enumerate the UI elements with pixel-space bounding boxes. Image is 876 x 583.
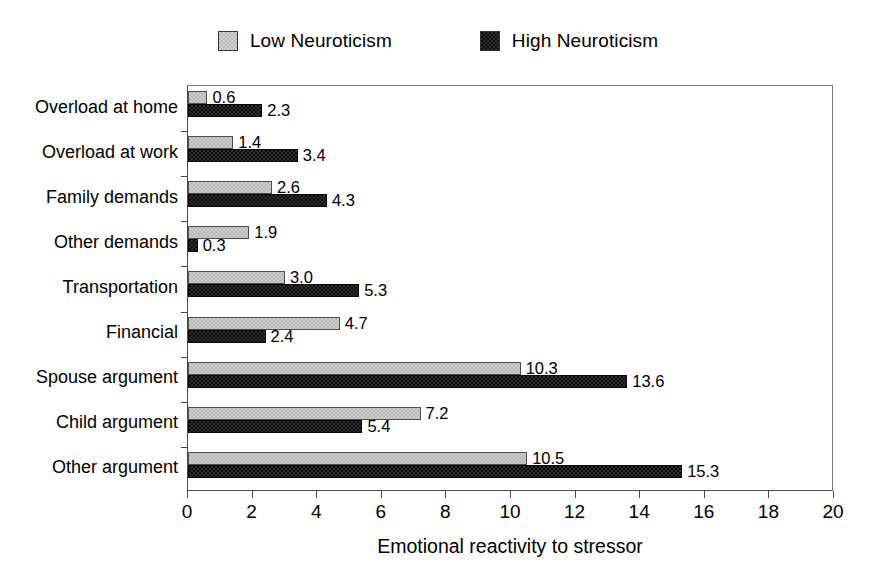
- legend-entry-high: High Neuroticism: [480, 30, 658, 52]
- bar-group: 7.25.4: [188, 402, 832, 447]
- x-axis-tick-label: 12: [564, 501, 585, 523]
- bar-group: 1.90.3: [188, 221, 832, 266]
- legend-swatch-low-icon: [218, 31, 238, 51]
- bar-value-low-neuroticism: 1.4: [238, 136, 261, 149]
- bar-group: 0.62.3: [188, 86, 832, 131]
- x-axis-tick-label: 20: [822, 501, 843, 523]
- bar-value-high-neuroticism: 0.3: [203, 239, 226, 252]
- bar-value-low-neuroticism: 2.6: [277, 181, 300, 194]
- x-axis-tick: [510, 491, 511, 498]
- bar-group: 3.05.3: [188, 266, 832, 311]
- bar-high-neuroticism: [188, 284, 359, 297]
- x-axis-tick: [252, 491, 253, 498]
- bar-high-neuroticism: [188, 465, 682, 478]
- x-axis-tick: [833, 491, 834, 498]
- bar-high-neuroticism: [188, 375, 627, 388]
- x-axis-title: Emotional reactivity to stressor: [187, 535, 833, 558]
- y-axis-label-financial: Financial: [0, 322, 178, 343]
- bar-value-low-neuroticism: 0.6: [212, 91, 235, 104]
- x-axis-tick: [768, 491, 769, 498]
- legend-entry-low: Low Neuroticism: [218, 30, 392, 52]
- x-axis-tick-label: 16: [693, 501, 714, 523]
- bar-high-neuroticism: [188, 330, 266, 343]
- bar-group: 10.313.6: [188, 357, 832, 402]
- y-axis-label-overload-at-work: Overload at work: [0, 142, 178, 163]
- bar-value-low-neuroticism: 1.9: [254, 226, 277, 239]
- y-axis-tick: [181, 176, 188, 177]
- bar-low-neuroticism: [188, 317, 340, 330]
- bar-low-neuroticism: [188, 181, 272, 194]
- bar-value-high-neuroticism: 15.3: [687, 465, 719, 478]
- x-axis-tick: [381, 491, 382, 498]
- y-axis-tick: [181, 131, 188, 132]
- bar-low-neuroticism: [188, 362, 521, 375]
- bar-low-neuroticism: [188, 271, 285, 284]
- x-axis-tick-label: 10: [499, 501, 520, 523]
- bar-value-high-neuroticism: 3.4: [303, 149, 326, 162]
- y-axis-tick: [181, 266, 188, 267]
- x-axis-tick: [316, 491, 317, 498]
- x-axis-tick: [187, 491, 188, 498]
- y-axis-label-overload-at-home: Overload at home: [0, 97, 178, 118]
- y-axis-label-other-argument: Other argument: [0, 457, 178, 478]
- x-axis-tick-label: 6: [376, 501, 387, 523]
- bar-group: 1.43.4: [188, 131, 832, 176]
- x-axis-tick-label: 14: [629, 501, 650, 523]
- bar-value-low-neuroticism: 10.5: [532, 452, 564, 465]
- x-axis-tick-label: 2: [246, 501, 257, 523]
- y-axis-tick: [181, 402, 188, 403]
- y-axis-tick: [181, 447, 188, 448]
- x-axis-tick: [704, 491, 705, 498]
- bar-high-neuroticism: [188, 104, 262, 117]
- x-axis-tick-label: 8: [440, 501, 451, 523]
- x-axis-tick: [445, 491, 446, 498]
- bar-value-high-neuroticism: 2.3: [267, 104, 290, 117]
- y-axis-tick: [181, 312, 188, 313]
- legend-label-high: High Neuroticism: [512, 30, 658, 52]
- x-axis-tick: [639, 491, 640, 498]
- chart-legend: Low Neuroticism High Neuroticism: [0, 30, 876, 52]
- y-axis-label-spouse-argument: Spouse argument: [0, 367, 178, 388]
- bar-group: 2.64.3: [188, 176, 832, 221]
- bar-value-high-neuroticism: 2.4: [271, 330, 294, 343]
- y-axis-tick: [181, 357, 188, 358]
- bar-group: 4.72.4: [188, 312, 832, 357]
- legend-label-low: Low Neuroticism: [250, 30, 392, 52]
- bar-value-low-neuroticism: 10.3: [526, 362, 558, 375]
- bar-value-high-neuroticism: 4.3: [332, 194, 355, 207]
- bar-value-low-neuroticism: 3.0: [290, 271, 313, 284]
- bar-low-neuroticism: [188, 136, 233, 149]
- y-axis-label-other-demands: Other demands: [0, 232, 178, 253]
- bar-high-neuroticism: [188, 239, 198, 252]
- bar-value-high-neuroticism: 13.6: [632, 375, 664, 388]
- x-axis-tick: [575, 491, 576, 498]
- bar-high-neuroticism: [188, 194, 327, 207]
- x-axis-tick-label: 0: [182, 501, 193, 523]
- y-axis-label-child-argument: Child argument: [0, 412, 178, 433]
- bar-value-low-neuroticism: 7.2: [426, 407, 449, 420]
- bar-value-low-neuroticism: 4.7: [345, 317, 368, 330]
- x-axis-tick-label: 18: [758, 501, 779, 523]
- bar-group: 10.515.3: [188, 447, 832, 492]
- bar-low-neuroticism: [188, 452, 527, 465]
- legend-swatch-high-icon: [480, 31, 500, 51]
- y-axis-tick: [181, 221, 188, 222]
- bar-value-high-neuroticism: 5.4: [367, 420, 390, 433]
- bar-value-high-neuroticism: 5.3: [364, 284, 387, 297]
- chart-plot-area: 0.62.31.43.42.64.31.90.33.05.34.72.410.3…: [187, 85, 833, 491]
- bar-low-neuroticism: [188, 91, 207, 104]
- bar-high-neuroticism: [188, 420, 362, 433]
- y-axis-label-transportation: Transportation: [0, 277, 178, 298]
- x-axis-tick-label: 4: [311, 501, 322, 523]
- y-axis-label-family-demands: Family demands: [0, 187, 178, 208]
- bar-high-neuroticism: [188, 149, 298, 162]
